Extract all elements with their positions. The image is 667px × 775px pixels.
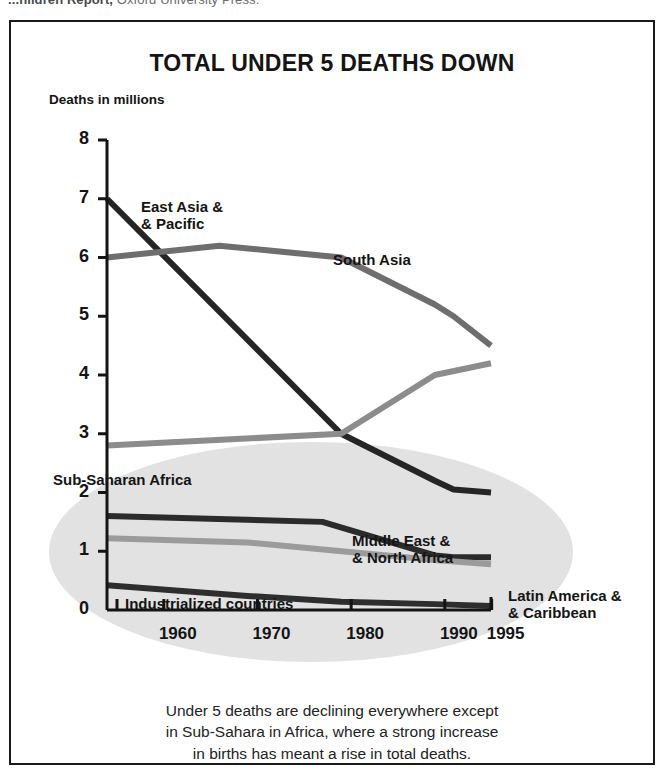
series-label-3: Middle East && North Africa [352,533,453,567]
series-label-line: & Caribbean [508,605,622,622]
figure-frame: TOTAL UNDER 5 DEATHS DOWN Deaths in mill… [9,20,655,765]
plot-area: 012345678 19601970198019901995 East Asia… [11,22,653,763]
y-tick-label-4: 4 [67,363,89,384]
x-tick-label-1980: 1980 [330,624,400,644]
y-tick-label-0: 0 [67,598,89,619]
caption-line-0: Under 5 deaths are declining everywhere … [11,700,653,721]
series-label-line: Middle East & [352,533,453,550]
series-label-line: East Asia & [141,199,223,216]
series-line-2 [107,363,491,445]
y-tick-label-8: 8 [67,128,89,149]
series-label-4: Latin America && Caribbean [508,588,622,622]
series-label-1: South Asia [333,252,411,269]
chart-canvas [11,22,653,763]
chart-caption: Under 5 deaths are declining everywhere … [11,700,653,764]
y-tick-label-7: 7 [67,187,89,208]
caption-line-2: in births has meant a rise in total deat… [11,743,653,764]
source-credit-line: ...hildren Report, Oxford University Pre… [8,0,528,8]
y-tick-label-1: 1 [67,539,89,560]
caption-line-1: in Sub-Sahara in Africa, where a strong … [11,721,653,742]
series-label-5: Industrialized countries [125,596,293,613]
series-label-line: & Pacific [141,216,223,233]
series-label-line: Latin America & [508,588,622,605]
x-tick-label-1960: 1960 [143,624,213,644]
source-credit-rest: Oxford University Press. [113,0,259,7]
y-tick-label-5: 5 [67,304,89,325]
x-tick-label-1970: 1970 [236,624,306,644]
series-label-2: Sub-Saharan Africa [53,472,192,489]
y-tick-label-6: 6 [67,246,89,267]
series-label-line: & North Africa [352,550,453,567]
x-tick-label-1995: 1995 [471,624,541,644]
source-credit-bold: ...hildren Report, [8,0,113,7]
y-tick-label-3: 3 [67,422,89,443]
series-label-0: East Asia && Pacific [141,199,223,233]
